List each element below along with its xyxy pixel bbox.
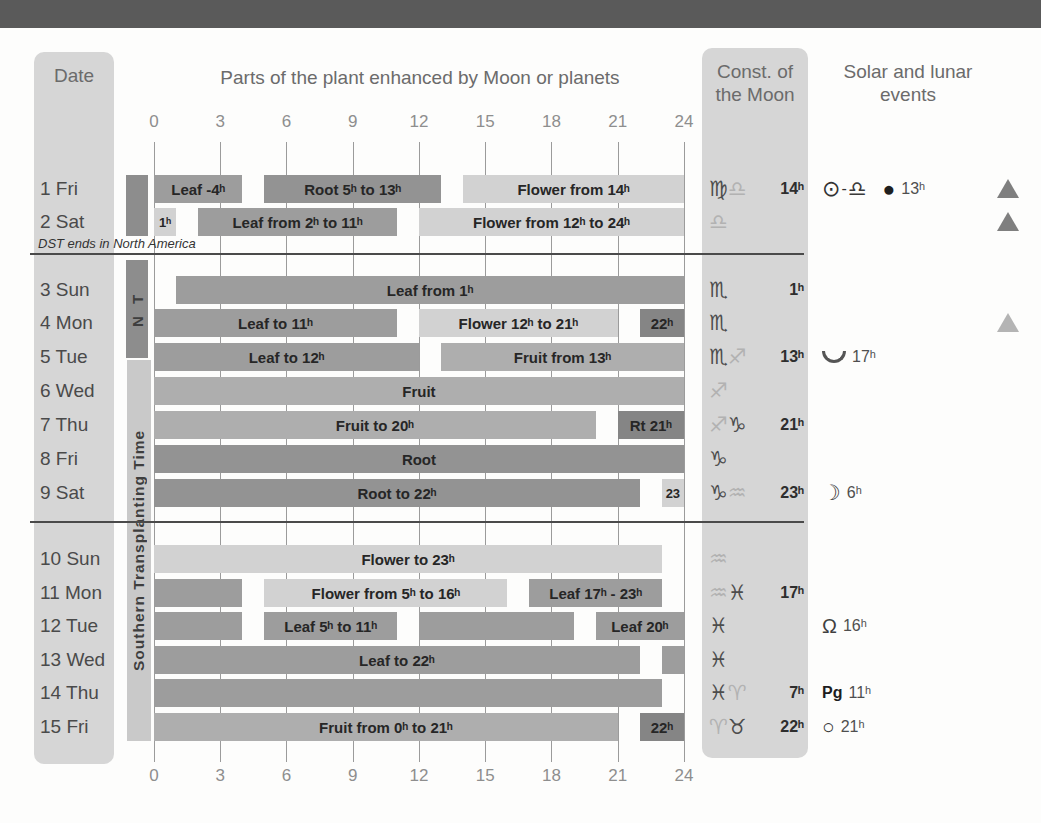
sagittarius-icon: ♐ [728, 343, 747, 371]
event-time: 13ʰ [901, 180, 925, 198]
northern-transplanting-bar-upper [126, 175, 148, 236]
bar-root: Root 5ʰ to 13ʰ [264, 175, 441, 203]
moon-sign-entry-time: 21ʰ [780, 416, 804, 434]
libra-icon: ♎ [709, 208, 728, 236]
bar-label: Rt 21ʰ [630, 417, 672, 434]
moon-constellation-cell: ♒♓17ʰ [709, 579, 804, 607]
bar-leaf: Leaf to 12ʰ [154, 343, 419, 371]
week-separator-line [30, 521, 804, 523]
bar-label: Flower 12ʰ to 21ʰ [459, 315, 578, 332]
moon-constellation-cell: ♍♎14ʰ [709, 175, 804, 203]
bar-label: Leaf 5ʰ to 11ʰ [284, 618, 377, 635]
bar-label: Fruit to 20ʰ [336, 417, 414, 434]
moon-constellation-cell: ♓ [709, 646, 804, 674]
bar-flower: Flower from 14ʰ [463, 175, 684, 203]
solar-lunar-events-cell: Pg11ʰ [822, 679, 994, 707]
bar-label: Leaf 17ʰ - 23ʰ [549, 585, 642, 602]
moon-sign-entry-time: 23ʰ [780, 484, 804, 502]
bar-label: Leaf to 22ʰ [359, 652, 435, 669]
scorpio-icon: ♏ [709, 343, 728, 371]
moon-constellation-cell: ♑♒23ʰ [709, 479, 804, 507]
pisces-icon: ♓ [728, 579, 747, 607]
bar-label: 22ʰ [651, 719, 673, 736]
taurus-icon: ♉ [728, 713, 747, 741]
date-label: 10 Sun [40, 545, 112, 573]
moon-constellation-cell: ♓♈7ʰ [709, 679, 804, 707]
bar-label: Fruit [402, 383, 435, 400]
hour-axis-label: 24 [667, 112, 701, 132]
triangle-marker-icon [997, 313, 1019, 332]
hour-axis-label: 21 [601, 112, 635, 132]
moon-constellation-cell: ♐ [709, 377, 804, 405]
event-time: 6ʰ [847, 484, 862, 502]
capricorn-icon: ♑ [709, 479, 728, 507]
bar-label: Leaf 20ʰ [611, 618, 668, 635]
moon-sign-entry-time: 13ʰ [780, 348, 804, 366]
moon-signs: ♒♓ [709, 579, 780, 607]
hour-axis-label: 6 [269, 766, 303, 786]
hour-axis-label: 3 [203, 112, 237, 132]
date-label: 4 Mon [40, 309, 112, 337]
dst-note: DST ends in North America [38, 236, 196, 251]
bar-label: Leaf from 2ʰ to 11ʰ [232, 214, 362, 231]
bar-leaf [419, 612, 574, 640]
moon-signs: ♎ [709, 208, 804, 236]
moon-constellation-cell: ♓ [709, 612, 804, 640]
date-label: 12 Tue [40, 612, 112, 640]
hour-axis-label: 18 [534, 766, 568, 786]
solar-lunar-events-cell: 17ʰ [822, 343, 994, 371]
aries-icon: ♈ [709, 713, 728, 741]
bar-root: Root to 22ʰ [154, 479, 640, 507]
moon-constellation-cell: ♎ [709, 208, 804, 236]
bar-fruit: Fruit from 13ʰ [441, 343, 684, 371]
bar-leaf [154, 612, 242, 640]
moon-signs: ♓ [709, 646, 804, 674]
bar-leaf: Leaf from 1ʰ [176, 276, 684, 304]
moon-signs: ♐ [709, 377, 804, 405]
moon-sign-entry-time: 14ʰ [780, 180, 804, 198]
sagittarius-icon: ♐ [709, 377, 728, 405]
aquarius-icon: ♒ [709, 579, 728, 607]
first-quarter-moon-icon: ☽ [822, 479, 841, 507]
aries-icon: ♈ [728, 679, 747, 707]
calendar-page: Date Parts of the plant enhanced by Moon… [0, 0, 1041, 823]
solar-lunar-events-cell: Ω16ʰ [822, 612, 994, 640]
bar-label: Root to 22ʰ [357, 485, 436, 502]
moon-sign-entry-time: 22ʰ [780, 718, 804, 736]
bar-label: 22ʰ [651, 315, 673, 332]
full-moon-icon: ○ [822, 713, 835, 741]
moon-constellation-cell: ♐♑21ʰ [709, 411, 804, 439]
bar-root: Root [154, 445, 684, 473]
bar-label: 1ʰ [159, 215, 171, 230]
date-label: 13 Wed [40, 646, 112, 674]
bar-dark: Rt 21ʰ [618, 411, 684, 439]
bar-label: Leaf to 11ʰ [238, 315, 313, 332]
date-label: 9 Sat [40, 479, 112, 507]
bar-label: Flower from 5ʰ to 16ʰ [312, 585, 461, 602]
pisces-icon: ♓ [709, 679, 728, 707]
new-moon-icon: ● [883, 175, 896, 203]
moon-sign-entry-time: 17ʰ [780, 584, 804, 602]
bar-label: Leaf -4ʰ [171, 181, 225, 198]
date-label: 1 Fri [40, 175, 112, 203]
bar-label: Flower from 12ʰ to 24ʰ [473, 214, 630, 231]
solar-lunar-events-cell: ⊙-♎●13ʰ [822, 175, 994, 203]
hour-axis-label: 9 [336, 766, 370, 786]
hour-axis-label: 9 [336, 112, 370, 132]
moon-sign-entry-time: 1ʰ [789, 281, 804, 299]
capricorn-icon: ♑ [709, 445, 728, 473]
moon-signs: ♏ [709, 309, 804, 337]
bar-flower: 1ʰ [154, 208, 176, 236]
solar-lunar-events-cell: ☽6ʰ [822, 479, 994, 507]
events-column-title: Solar and lunar events [838, 60, 978, 106]
libra-icon: ♎ [728, 175, 747, 203]
moon-constellation-cell: ♈♉22ʰ [709, 713, 804, 741]
northern-transplanting-label: N T [126, 260, 148, 358]
moon-constellation-cell: ♏1ʰ [709, 276, 804, 304]
hour-axis-label: 21 [601, 766, 635, 786]
hour-axis-label: 12 [402, 112, 436, 132]
bar-label: Leaf from 1ʰ [387, 282, 473, 299]
bar-leaf: Leaf -4ʰ [154, 175, 242, 203]
date-column-title: Date [36, 64, 112, 87]
hour-axis-label: 24 [667, 766, 701, 786]
